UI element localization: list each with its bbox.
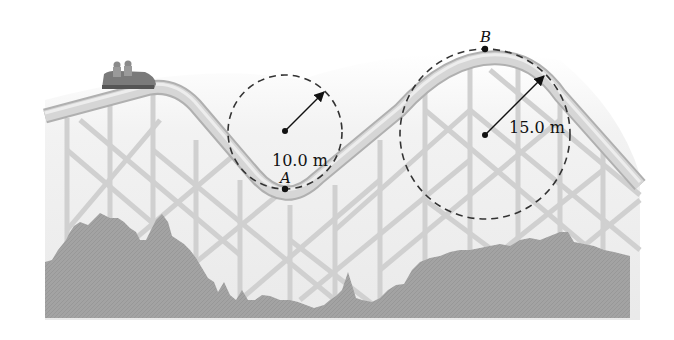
- center-dot-a: [282, 128, 288, 134]
- point-a-label: A: [278, 169, 291, 187]
- coaster-car: [102, 61, 156, 90]
- roller-coaster-diagram: 10.0 m A 15.0 m B: [0, 0, 674, 340]
- point-b-label: B: [479, 28, 491, 46]
- radius-label-b: 15.0 m: [509, 118, 565, 137]
- radius-label-a: 10.0 m: [272, 151, 328, 170]
- point-b-dot: [482, 46, 488, 52]
- center-dot-b: [482, 132, 488, 138]
